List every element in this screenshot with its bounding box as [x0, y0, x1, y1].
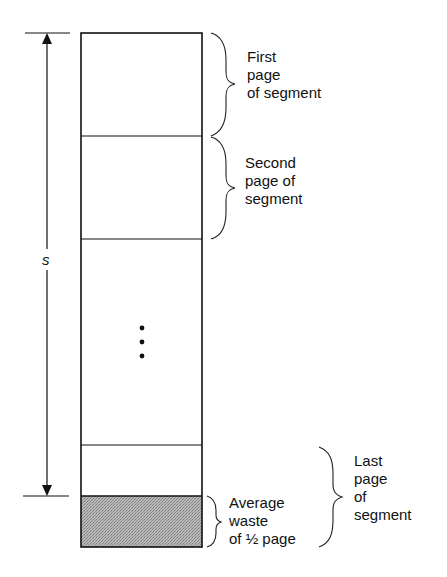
segment-outline: [81, 33, 202, 547]
ellipsis-dots-icon: [140, 326, 145, 359]
waste-region: [81, 496, 202, 547]
segment-column: [81, 33, 202, 547]
second-page-brace-icon: [211, 137, 235, 239]
last-page-brace-icon: [319, 447, 342, 547]
arrowhead-down-icon: [42, 485, 52, 496]
second-page-label: Second page of segment: [245, 154, 303, 208]
last-page-label: Last page of segment: [354, 452, 412, 524]
arrowhead-up-icon: [42, 33, 52, 44]
waste-brace-icon: [207, 496, 221, 547]
size-label: s: [42, 249, 50, 270]
average-waste-label: Average waste of ½ page: [229, 494, 296, 548]
first-page-label: First page of segment: [247, 48, 321, 102]
first-page-brace-icon: [211, 33, 235, 136]
